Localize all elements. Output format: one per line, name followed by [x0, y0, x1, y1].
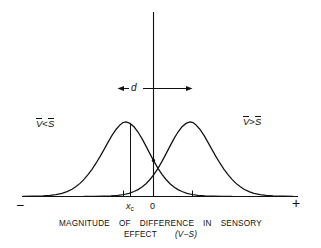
right-normal-curve: [84, 122, 293, 196]
caption-difference: DIFFERENCE: [140, 219, 194, 228]
d-arrow-right-head: [186, 86, 193, 91]
caption-line-2: EFFECT(V−S): [0, 230, 321, 239]
d-arrow-left-head: [118, 86, 125, 91]
caption-line-1: MAGNITUDEOFDIFFERENCEINSENSORY: [0, 219, 321, 228]
caption-effect: EFFECT: [124, 230, 157, 239]
right-condition-label: V>S: [243, 117, 261, 127]
left-condition-first-var: V: [36, 119, 42, 129]
d-distance-label: d: [131, 83, 137, 93]
caption-in: IN: [203, 219, 212, 228]
caption-sensory: SENSORY: [221, 219, 262, 228]
caption-vs-expression: (V−S): [175, 230, 197, 239]
right-condition-first-var: V: [243, 117, 249, 127]
caption-of: OF: [119, 219, 131, 228]
curves-intersection-point: [152, 159, 155, 162]
axis-negative-end-label: −: [16, 198, 24, 212]
zero-axis-label: 0: [150, 202, 155, 211]
right-condition-second-var: S: [255, 117, 261, 127]
xc-axis-label: xc: [126, 202, 134, 213]
caption-magnitude: MAGNITUDE: [59, 219, 110, 228]
xc-subscript: c: [131, 205, 134, 212]
left-condition-label: V<S: [36, 119, 54, 129]
left-normal-curve: [23, 122, 232, 196]
axis-positive-end-label: +: [292, 196, 300, 210]
left-condition-second-var: S: [48, 119, 54, 129]
normal-curves-figure: d V<S V>S − + xc 0 MAGNITUDEOFDIFFERENCE…: [0, 0, 321, 248]
